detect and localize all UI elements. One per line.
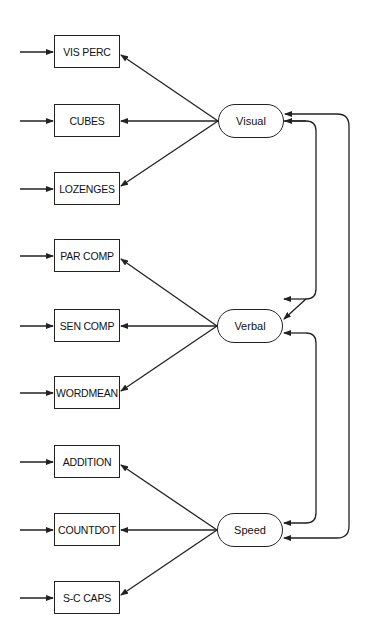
loading-speed-addition xyxy=(121,465,217,530)
observed-par-comp: PAR COMP xyxy=(54,239,120,272)
observed-sc-caps: S-C CAPS xyxy=(54,581,120,614)
loading-visual-lozenges xyxy=(121,121,218,186)
factor-verbal: Verbal xyxy=(217,309,283,343)
factor-speed: Speed xyxy=(217,513,283,547)
loading-visual-vis-perc xyxy=(121,55,218,121)
factor-visual: Visual xyxy=(218,104,284,138)
observed-wordmean: WORDMEAN xyxy=(54,376,120,409)
observed-lozenges: LOZENGES xyxy=(54,172,120,205)
observed-sen-comp: SEN COMP xyxy=(54,309,120,342)
covariance-visual-verbal xyxy=(284,121,316,319)
observed-cubes: CUBES xyxy=(54,104,120,137)
observed-addition: ADDITION xyxy=(54,445,120,478)
loading-verbal-par-comp xyxy=(121,259,217,326)
loading-verbal-wordmean xyxy=(121,326,217,391)
observed-countdot: COUNTDOT xyxy=(54,513,120,546)
covariance-verbal-speed xyxy=(284,333,316,523)
loading-speed-sc-caps xyxy=(121,530,217,595)
observed-vis-perc: VIS PERC xyxy=(54,35,120,68)
